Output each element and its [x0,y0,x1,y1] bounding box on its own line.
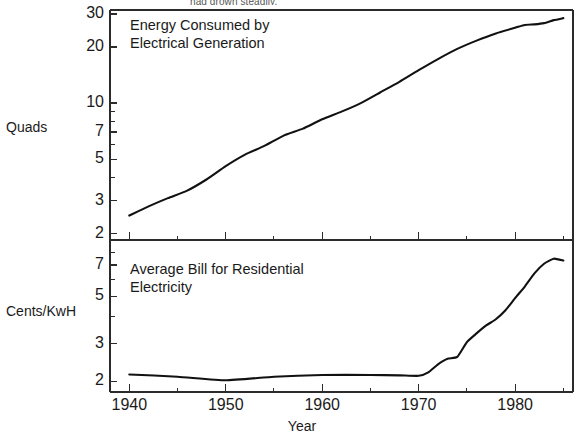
x-tick-label-1960: 1960 [282,396,362,414]
y-tick-label-bottom-2: 2 [62,371,104,389]
top-panel-axis-label: Quads [6,119,47,135]
top-panel-title-line1: Energy Consumed by [130,16,269,34]
x-tick-label-1980: 1980 [475,396,555,414]
y-tick-label-bottom-3: 3 [62,334,104,352]
x-axis-title: Year [262,418,342,434]
y-tick-label-top-10: 10 [62,93,104,111]
x-tick-label-1940: 1940 [89,396,169,414]
y-tick-label-top-30: 30 [62,4,104,22]
bottom-panel-title-line2: Electricity [130,278,304,296]
y-tick-label-bottom-5: 5 [62,286,104,304]
y-tick-label-top-3: 3 [62,191,104,209]
x-tick-label-1950: 1950 [186,396,266,414]
y-tick-label-top-2: 2 [62,224,104,242]
figure-root: had grown steadily. 30201075327532194019… [0,0,584,439]
y-tick-label-top-20: 20 [62,37,104,55]
x-tick-label-1970: 1970 [379,396,459,414]
y-tick-label-top-5: 5 [62,149,104,167]
y-tick-label-bottom-7: 7 [62,255,104,273]
bottom-panel-title-line1: Average Bill for Residential [130,260,304,278]
y-tick-label-top-7: 7 [62,122,104,140]
top-panel-title: Energy Consumed byElectrical Generation [130,16,269,52]
bottom-panel-axis-label: Cents/KwH [6,303,76,319]
top-panel-title-line2: Electrical Generation [130,34,269,52]
bottom-panel-title: Average Bill for ResidentialElectricity [130,260,304,296]
